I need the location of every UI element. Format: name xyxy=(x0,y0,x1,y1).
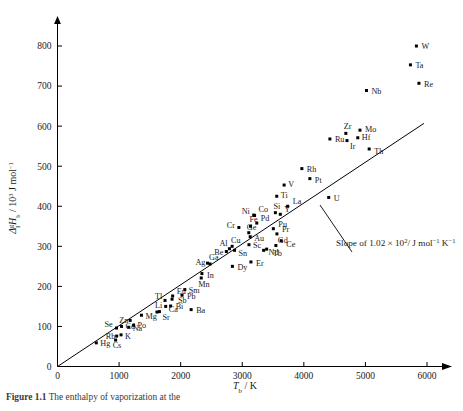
data-point: Pt xyxy=(308,176,322,185)
point-marker-dy xyxy=(231,265,234,268)
point-marker-ni xyxy=(252,214,255,217)
point-label-po: Po xyxy=(138,321,147,330)
data-point: La xyxy=(286,197,302,208)
y-title-subscript-l: l xyxy=(14,226,21,228)
point-label-be: Be xyxy=(214,248,223,257)
point-label-nb: Nb xyxy=(371,87,381,96)
point-marker-sc xyxy=(247,243,250,246)
point-label-tl: Tl xyxy=(155,292,163,301)
point-label-zn: Zn xyxy=(119,316,128,325)
data-point: Ni xyxy=(242,207,256,217)
point-label-au: Au xyxy=(254,234,264,243)
point-label-er: Er xyxy=(256,259,264,268)
point-marker-mo xyxy=(358,129,361,132)
point-label-co: Co xyxy=(259,205,269,214)
point-marker-rb xyxy=(115,335,118,338)
data-point: Tl xyxy=(155,292,167,302)
y-tick-label: 500 xyxy=(37,162,52,172)
point-marker-fe xyxy=(249,225,252,228)
point-label-mn: Mn xyxy=(198,280,209,289)
point-label-se: Se xyxy=(104,320,113,329)
axis-titles-group: Tb / KΔglHb / 103 J mol−1 xyxy=(7,162,258,393)
y-tick-label: 800 xyxy=(37,41,52,51)
point-marker-sb xyxy=(171,298,174,301)
point-marker-po xyxy=(132,324,135,327)
point-marker-ti xyxy=(275,195,278,198)
point-marker-rh xyxy=(300,167,303,170)
data-point: Dy xyxy=(231,263,248,272)
point-marker-ca xyxy=(164,305,167,308)
point-marker-al xyxy=(228,247,231,250)
data-point: Th xyxy=(368,147,384,156)
data-point: Zr xyxy=(344,122,352,135)
point-label-mo: Mo xyxy=(365,125,376,134)
slope-annotation-group: Slope of 1.02 × 102/ J mol−1 K−1 xyxy=(320,205,456,252)
data-point: Re xyxy=(417,80,433,89)
point-label-pu: Pu xyxy=(278,220,287,229)
data-point: Mg xyxy=(140,312,157,321)
data-point: V xyxy=(283,180,295,189)
point-marker-th xyxy=(368,147,371,150)
point-marker-tl xyxy=(164,299,167,302)
y-title-unit: / 10 xyxy=(7,197,18,215)
data-point: K xyxy=(120,332,132,341)
x-tick-label: 2000 xyxy=(171,371,190,381)
point-label-cu: Cu xyxy=(231,236,241,245)
y-tick-label: 600 xyxy=(37,122,52,132)
data-point: Ta xyxy=(409,61,424,70)
data-point: Ru xyxy=(328,135,344,144)
slope-units-kelvin: K xyxy=(440,238,449,248)
caption-number: 1.1 xyxy=(35,392,47,402)
point-label-ag: Ag xyxy=(195,258,205,267)
point-marker-zn xyxy=(129,319,132,322)
point-marker-ce xyxy=(280,239,283,242)
point-label-ba: Ba xyxy=(196,306,205,315)
data-point: Ag xyxy=(195,258,209,267)
point-marker-y xyxy=(279,213,282,216)
data-points-group: HgCsRbKNaCdSePoZnMgLiSrCaBiTlEuSbPbSmMnB… xyxy=(95,42,434,350)
point-marker-tb xyxy=(265,248,268,251)
point-label-v: V xyxy=(288,180,294,189)
point-marker-ru xyxy=(328,137,331,140)
slope-units-sup2: −1 xyxy=(448,237,455,244)
point-label-al: Al xyxy=(219,239,228,248)
point-label-rb: Rb xyxy=(106,332,116,341)
data-point: Ge xyxy=(247,223,257,235)
point-label-zr: Zr xyxy=(344,122,352,131)
point-marker-eu xyxy=(171,294,174,297)
point-label-dy: Dy xyxy=(237,263,248,272)
y-axis-arrow xyxy=(54,16,61,24)
point-label-k: K xyxy=(125,332,131,341)
scatter-plot: 0100020003000400050006000010020030040050… xyxy=(0,0,463,411)
point-label-u: U xyxy=(334,194,340,203)
point-label-ti: Ti xyxy=(281,191,289,200)
point-label-sb: Sb xyxy=(178,296,187,305)
point-marker-si xyxy=(274,211,277,214)
point-marker-re xyxy=(417,82,420,85)
point-label-pd: Pd xyxy=(261,214,270,223)
data-point: Sn xyxy=(233,249,247,259)
point-marker-bi xyxy=(169,305,172,308)
point-marker-be xyxy=(225,250,228,253)
point-label-w: W xyxy=(421,42,429,51)
data-point: Ba xyxy=(190,306,206,315)
point-marker-se xyxy=(115,327,118,330)
point-marker-er xyxy=(249,260,252,263)
y-tick-label: 0 xyxy=(47,362,52,372)
y-tick-label: 100 xyxy=(37,322,52,332)
x-tick-label: 5000 xyxy=(356,371,375,381)
point-label-ru: Ru xyxy=(335,135,345,144)
x-tick-label: 6000 xyxy=(418,371,437,381)
point-marker-ir xyxy=(346,139,349,142)
data-point: Sb xyxy=(171,296,187,305)
y-axis-title: ΔglHb / 103 J mol−1 xyxy=(7,162,21,235)
x-tick-label: 1000 xyxy=(110,371,129,381)
x-title-unit: / K xyxy=(242,380,258,391)
point-label-rh: Rh xyxy=(307,165,317,174)
point-marker-in xyxy=(200,272,203,275)
x-tick-label: 4000 xyxy=(294,371,313,381)
data-point: Cr xyxy=(227,221,241,230)
point-marker-nd xyxy=(262,249,265,252)
point-label-la: La xyxy=(293,197,302,206)
data-point: Nb xyxy=(365,87,382,96)
